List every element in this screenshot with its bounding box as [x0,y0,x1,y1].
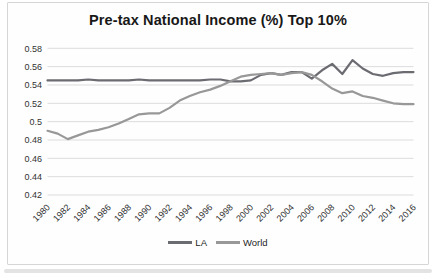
x-tick-label: 2014 [376,202,397,223]
world-series-line [48,72,414,139]
la-series-line [48,60,414,81]
page-edge-strip [4,269,432,273]
y-tick-label: 0.54 [24,80,42,90]
legend-label-world: World [243,237,268,248]
x-tick-label: 1986 [92,202,113,223]
x-tick-label: 2002 [254,202,275,223]
x-tick-label: 2016 [397,202,418,223]
y-tick-label: 0.46 [24,154,42,164]
x-tick-label: 2010 [336,202,357,223]
x-tick-label: 1988 [112,202,133,223]
y-tick-label: 0.58 [24,44,42,54]
x-tick-label: 1990 [132,202,153,223]
y-tick-label: 0.44 [24,172,42,182]
y-tick-label: 0.48 [24,135,42,145]
chart-frame: Pre-tax National Income (%) Top 10% 0.58… [7,2,429,265]
x-tick-label: 1982 [51,202,72,223]
legend-item-la: LA [168,237,207,248]
x-tick-label: 2012 [356,202,377,223]
x-tick-label: 2006 [295,202,316,223]
x-tick-label: 1984 [71,202,92,223]
legend-item-world: World [216,237,268,248]
y-tick-label: 0.56 [24,62,42,72]
x-tick-label: 1996 [193,202,214,223]
y-tick-label: 0.52 [24,99,42,109]
legend-label-la: LA [195,237,207,248]
x-tick-label: 2000 [234,202,255,223]
y-tick-label: 0.42 [24,190,42,200]
la-line-swatch-icon [168,241,192,243]
x-tick-label: 1998 [214,202,235,223]
x-tick-label: 2004 [275,202,296,223]
x-tick-label: 1980 [31,202,52,223]
plot-area: 0.580.560.540.520.50.480.460.440.4219801… [8,3,428,264]
legend: LA World [8,237,428,248]
world-line-swatch-icon [216,241,240,243]
y-tick-label: 0.5 [29,117,42,127]
x-tick-label: 2008 [315,202,336,223]
x-tick-label: 1994 [173,202,194,223]
x-tick-label: 1992 [153,202,174,223]
